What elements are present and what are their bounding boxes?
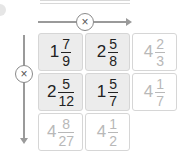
fraction: 1 7 [155,77,165,108]
fraction: 8 27 [58,117,74,148]
mixed-number: 2 5 12 [47,77,74,108]
mixed-number: 4 8 27 [47,117,74,148]
arrow-right-icon [126,18,132,26]
fraction: 2 3 [155,37,165,68]
answer-cell: 4 1 2 [85,113,130,151]
given-cell: 2 5 8 [85,33,130,71]
denominator: 2 [109,134,117,148]
arrow-down-icon [20,138,28,144]
vertical-arrow [23,35,25,140]
given-cell: 2 5 12 [38,73,83,111]
fraction: 5 12 [58,77,74,108]
answer-cell: 4 2 3 [132,33,177,71]
mixed-number: 4 1 7 [144,77,165,108]
numerator: 1 [156,77,164,91]
empty-cell [132,113,177,151]
numerator: 1 [109,117,117,131]
whole-part: 4 [97,122,106,142]
numerator: 5 [109,37,117,51]
denominator: 9 [62,54,70,68]
numerator: 2 [156,37,164,51]
whole-part: 1 [97,82,106,102]
given-cell: 1 5 7 [85,73,130,111]
whole-part: 1 [50,42,59,62]
whole-part: 2 [47,82,56,102]
mixed-number: 4 2 3 [144,37,165,68]
whole-part: 4 [47,122,56,142]
denominator: 27 [58,134,74,148]
whole-part: 2 [97,42,106,62]
numerator: 5 [62,77,70,91]
whole-part: 4 [144,82,153,102]
answer-cell: 4 1 7 [132,73,177,111]
numerator: 5 [109,77,117,91]
problem-number-badge [0,4,6,16]
denominator: 3 [156,54,164,68]
denominator: 7 [156,94,164,108]
mixed-number: 1 7 9 [50,37,71,68]
multiply-icon-horizontal: × [76,13,94,31]
fraction: 1 2 [108,117,118,148]
numerator: 8 [62,117,70,131]
mixed-number: 1 5 7 [97,77,118,108]
fraction: 7 9 [61,37,71,68]
whole-part: 4 [144,42,153,62]
denominator: 7 [109,94,117,108]
numerator: 7 [62,37,70,51]
fraction-grid: 1 7 9 2 5 8 4 2 [38,33,177,151]
fraction: 5 7 [108,77,118,108]
given-cell: 1 7 9 [38,33,83,71]
mixed-number: 4 1 2 [97,117,118,148]
denominator: 8 [109,54,117,68]
previous-table-edge [40,0,130,4]
denominator: 12 [58,94,74,108]
multiply-icon-vertical: × [15,65,33,83]
fraction: 5 8 [108,37,118,68]
answer-cell: 4 8 27 [38,113,83,151]
mixed-number: 2 5 8 [97,37,118,68]
